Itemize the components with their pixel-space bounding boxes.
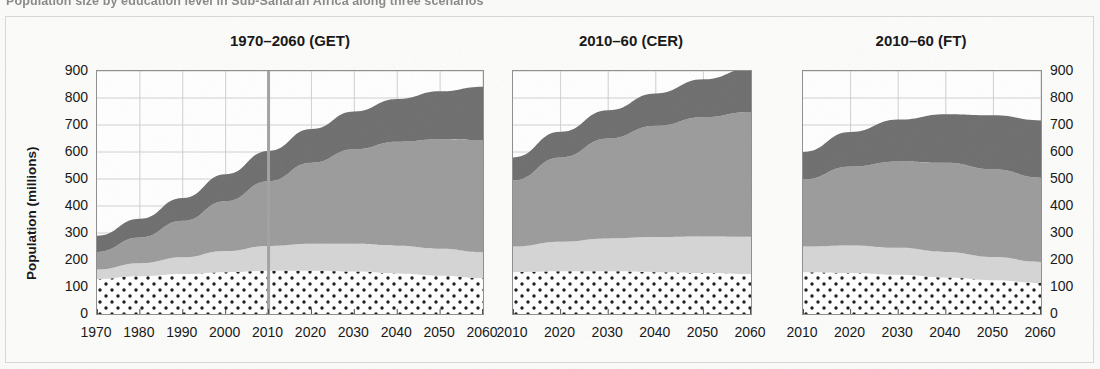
area-chart-ft [803, 71, 1041, 314]
y-tick-label-right: 700 [1050, 117, 1096, 131]
y-tick-label-left: 100 [40, 279, 88, 293]
area-chart-get [97, 71, 483, 314]
y-tick-label-left: 700 [40, 117, 88, 131]
y-tick-label-left: 200 [40, 252, 88, 266]
y-tick-label-right: 300 [1050, 225, 1096, 239]
plot-area-cer [512, 70, 752, 315]
y-tick-label-left: 600 [40, 144, 88, 158]
x-tick-label: 2050 [967, 325, 1017, 339]
y-tick-label-right: 0 [1050, 306, 1096, 320]
x-tick-label: 2060 [725, 325, 775, 339]
figure-container: Population size by education level in Su… [0, 0, 1100, 369]
y-axis-title: Population (millions) [24, 147, 39, 281]
x-tick-label: 2010 [777, 325, 827, 339]
y-tick-label-right: 400 [1050, 198, 1096, 212]
y-tick-label-left: 300 [40, 225, 88, 239]
figure-caption: Population size by education level in Su… [6, 0, 484, 8]
y-tick-label-right: 800 [1050, 90, 1096, 104]
x-tick-label: 2030 [582, 325, 632, 339]
y-tick-label-left: 900 [40, 63, 88, 77]
y-tick-label-right: 600 [1050, 144, 1096, 158]
x-tick-label: 2040 [920, 325, 970, 339]
y-tick-label-left: 400 [40, 198, 88, 212]
y-tick-label-left: 500 [40, 171, 88, 185]
y-tick-label-left: 800 [40, 90, 88, 104]
x-tick-label: 2020 [825, 325, 875, 339]
panel-title-get: 1970–2060 (GET) [96, 32, 484, 49]
y-tick-label-right: 200 [1050, 252, 1096, 266]
panel-title-cer: 2010–60 (CER) [510, 32, 752, 49]
y-tick-label-right: 100 [1050, 279, 1096, 293]
x-tick-label: 2060 [1015, 325, 1065, 339]
panel-title-ft: 2010–60 (FT) [800, 32, 1042, 49]
x-tick-label: 2020 [535, 325, 585, 339]
y-tick-label-left: 0 [40, 306, 88, 320]
y-tick-label-right: 500 [1050, 171, 1096, 185]
plot-area-get [96, 70, 484, 315]
plot-area-ft [802, 70, 1042, 315]
x-tick-label: 2050 [677, 325, 727, 339]
area-chart-cer [513, 71, 751, 314]
x-tick-label: 2040 [630, 325, 680, 339]
x-tick-label: 2030 [872, 325, 922, 339]
y-tick-label-right: 900 [1050, 63, 1096, 77]
x-tick-label: 2010 [487, 325, 537, 339]
